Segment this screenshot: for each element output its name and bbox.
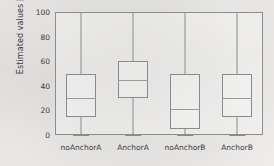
lower-whisker-cap (229, 135, 245, 136)
iqr-box (222, 74, 252, 117)
plot-area (55, 12, 263, 135)
y-tick-label: 100 (36, 8, 50, 17)
box-plot-AnchorA (107, 12, 159, 135)
box-plot-noAnchorB (159, 12, 211, 135)
upper-whisker-cap (73, 12, 89, 13)
x-tick-label: noAnchorB (165, 143, 206, 152)
upper-whisker-cap (177, 12, 193, 13)
lower-whisker (237, 117, 238, 135)
x-tick-label: AnchorB (221, 143, 253, 152)
y-axis-tick-labels: 020406080100 (26, 0, 50, 166)
y-tick-label: 60 (40, 57, 50, 66)
y-axis-label: Estimated values [%] (16, 0, 25, 87)
y-tick-label: 0 (45, 131, 50, 140)
upper-whisker-cap (229, 12, 245, 13)
x-tick-label: AnchorA (117, 143, 149, 152)
upper-whisker (185, 12, 186, 74)
upper-whisker (237, 12, 238, 74)
upper-whisker (81, 12, 82, 74)
y-tick-label: 40 (40, 81, 50, 90)
upper-whisker (133, 12, 134, 61)
median-line (170, 109, 200, 110)
median-line (118, 80, 148, 81)
boxplot-figure: Estimated values [%] 020406080100 noAnch… (0, 0, 274, 166)
upper-whisker-cap (125, 12, 141, 13)
box-plot-noAnchorA (55, 12, 107, 135)
lower-whisker (81, 117, 82, 135)
lower-whisker-cap (73, 135, 89, 136)
box-plot-AnchorB (211, 12, 263, 135)
median-line (66, 98, 96, 99)
x-tick-label: noAnchorA (61, 143, 102, 152)
lower-whisker-cap (125, 135, 141, 136)
median-line (222, 98, 252, 99)
y-tick-label: 80 (40, 32, 50, 41)
y-tick-label: 20 (40, 106, 50, 115)
lower-whisker-cap (177, 135, 193, 136)
iqr-box (66, 74, 96, 117)
lower-whisker (133, 98, 134, 135)
iqr-box (170, 74, 200, 129)
